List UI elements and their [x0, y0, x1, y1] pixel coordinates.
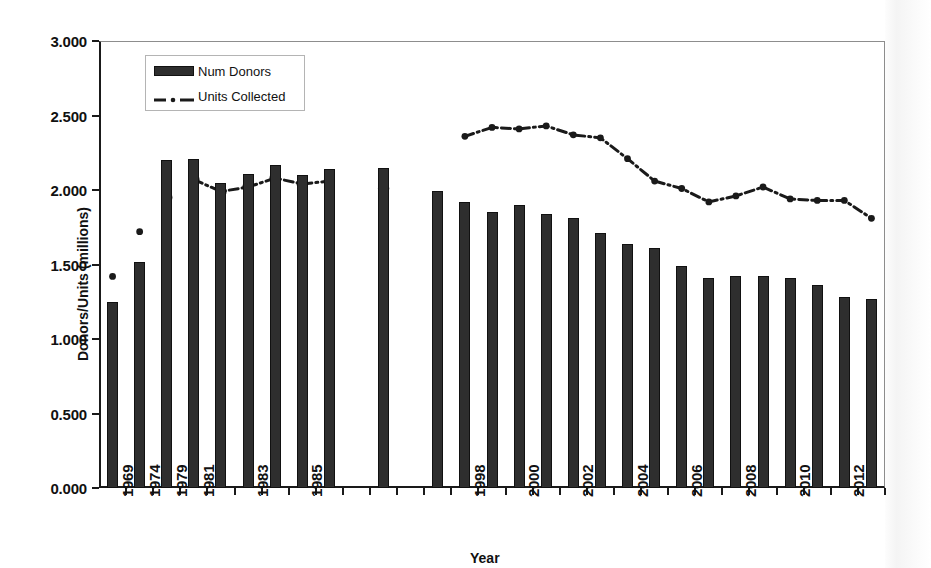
x-axis-tick-mark: [423, 488, 425, 495]
legend-item-num-donors: Num Donors: [154, 62, 271, 80]
bar-num-donors: [215, 183, 226, 488]
units-collected-marker: [760, 184, 767, 191]
legend-bar-swatch: [154, 66, 194, 76]
x-axis-tick-mark: [830, 488, 832, 495]
bar-num-donors: [161, 160, 172, 488]
x-axis-tick-mark: [721, 488, 723, 495]
bar-num-donors: [134, 262, 145, 488]
units-collected-marker: [570, 131, 577, 138]
legend-label-units-collected: Units Collected: [198, 89, 285, 104]
x-axis-tick-label: 1979: [173, 465, 190, 497]
units-collected-marker: [597, 134, 604, 141]
bar-num-donors: [839, 297, 850, 488]
units-collected-marker: [787, 196, 794, 203]
x-axis-tick-mark: [288, 488, 290, 495]
units-collected-marker: [868, 215, 875, 222]
bar-num-donors: [243, 174, 254, 488]
x-axis-tick-label: 2008: [742, 465, 759, 497]
units-collected-marker: [109, 273, 116, 280]
x-axis-tick-mark: [613, 488, 615, 495]
y-axis-tick-mark: [92, 264, 99, 266]
bar-num-donors: [812, 285, 823, 488]
bar-num-donors: [703, 278, 714, 488]
bar-num-donors: [459, 202, 470, 488]
y-axis-tick-label: 0.500: [50, 405, 87, 422]
x-axis-tick-mark: [776, 488, 778, 495]
y-axis-tick-mark: [92, 413, 99, 415]
bar-num-donors: [676, 266, 687, 488]
bar-num-donors: [297, 175, 308, 488]
bar-num-donors: [432, 191, 443, 488]
y-axis-tick-mark: [92, 338, 99, 340]
units-collected-marker: [678, 185, 685, 192]
units-collected-marker: [733, 193, 740, 200]
bar-num-donors: [595, 233, 606, 488]
units-line-segment-early: [194, 178, 330, 191]
units-collected-marker: [461, 133, 468, 140]
legend-dash-dot-icon: [154, 95, 194, 105]
x-axis-tick-label: 1998: [471, 465, 488, 497]
x-axis-tick-mark: [884, 488, 886, 495]
units-collected-marker: [814, 197, 821, 204]
legend-label-num-donors: Num Donors: [198, 64, 271, 79]
bar-num-donors: [324, 169, 335, 488]
x-axis-tick-mark: [559, 488, 561, 495]
x-axis-tick-label: 2006: [688, 465, 705, 497]
units-collected-marker: [624, 155, 631, 162]
x-axis-tick-label: 1981: [200, 465, 217, 497]
units-collected-marker: [651, 178, 658, 185]
y-axis-tick-label: 2.500: [50, 107, 87, 124]
legend-line-swatch: [154, 91, 194, 101]
x-axis-tick-mark: [667, 488, 669, 495]
y-axis-tick-label: 2.000: [50, 182, 87, 199]
chart-figure: Donors/Units (millions) 0.0000.5001.0001…: [0, 0, 931, 568]
units-collected-marker: [516, 126, 523, 133]
bar-num-donors: [730, 276, 741, 488]
units-line-segment-late: [465, 126, 872, 218]
y-axis-tick-label: 0.000: [50, 480, 87, 497]
x-axis-tick-mark: [342, 488, 344, 495]
x-axis-tick-mark: [505, 488, 507, 495]
x-axis-tick-label: 1969: [119, 465, 136, 497]
units-collected-marker: [543, 123, 550, 130]
x-axis-tick-label: 2010: [796, 465, 813, 497]
x-axis-tick-label: 1983: [254, 465, 271, 497]
y-axis-tick-label: 1.000: [50, 331, 87, 348]
y-axis-tick-mark: [92, 487, 99, 489]
x-axis-label: Year: [470, 550, 500, 566]
units-collected-marker: [841, 197, 848, 204]
bar-num-donors: [270, 165, 281, 488]
bar-num-donors: [378, 168, 389, 488]
chart-legend: Num Donors Units Collected: [145, 55, 305, 111]
bar-num-donors: [649, 248, 660, 488]
bar-num-donors: [622, 244, 633, 488]
y-axis-tick-label: 3.000: [50, 33, 87, 50]
x-axis-tick-mark: [396, 488, 398, 495]
bar-num-donors: [866, 299, 877, 488]
y-axis-tick-label: 1.500: [50, 256, 87, 273]
bar-num-donors: [758, 276, 769, 488]
x-axis-tick-label: 2012: [850, 465, 867, 497]
y-axis-tick-mark: [92, 40, 99, 42]
x-axis-tick-mark: [234, 488, 236, 495]
x-axis-tick-mark: [369, 488, 371, 495]
x-axis-tick-label: 1985: [308, 465, 325, 497]
bar-num-donors: [541, 214, 552, 488]
y-axis-tick-mark: [92, 115, 99, 117]
x-axis-tick-label: 2002: [579, 465, 596, 497]
bar-num-donors: [487, 212, 498, 488]
x-axis-tick-label: 1974: [146, 465, 163, 497]
bar-num-donors: [107, 302, 118, 488]
bar-num-donors: [785, 278, 796, 488]
bar-num-donors: [188, 159, 199, 488]
legend-item-units-collected: Units Collected: [154, 87, 285, 105]
bar-num-donors: [514, 205, 525, 488]
x-axis-tick-mark: [450, 488, 452, 495]
units-collected-marker: [136, 228, 143, 235]
x-axis-tick-label: 2000: [525, 465, 542, 497]
y-axis-tick-mark: [92, 189, 99, 191]
x-axis-tick-label: 2004: [634, 465, 651, 497]
bar-num-donors: [568, 218, 579, 488]
units-collected-marker: [705, 199, 712, 206]
units-collected-marker: [489, 124, 496, 131]
